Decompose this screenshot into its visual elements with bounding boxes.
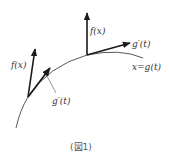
label-curve: x=g(t) [132,62,162,72]
curve-x-equals-g-t [16,52,143,128]
vector-field-diagram: f(x) g′(t) x=g(t) f(x) g′(t) (図1) [0,0,169,162]
label-g-prime-left: g′(t) [52,96,71,106]
figure-caption: (図1) [70,142,92,152]
leader-line [47,76,56,93]
label-f-x-left: f(x) [10,60,27,70]
label-f-x-top: f(x) [89,26,106,36]
label-g-prime-top: g′(t) [132,39,151,49]
